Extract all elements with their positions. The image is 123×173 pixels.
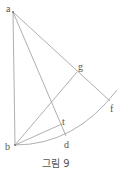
segment-ab <box>13 12 15 145</box>
segment-af <box>13 12 110 101</box>
figure-caption: 그림 9 <box>42 158 70 169</box>
point-a-dot <box>12 11 14 13</box>
segment-ad <box>13 12 66 136</box>
point-b-dot <box>14 144 16 146</box>
label-f: f <box>110 103 114 114</box>
geometry-diagram: a b g f d t 그림 9 <box>0 0 123 173</box>
label-t: t <box>62 116 65 127</box>
arc-bdf <box>15 90 117 145</box>
label-g: g <box>78 61 83 72</box>
segment-bt <box>15 124 62 145</box>
label-d: d <box>64 139 69 150</box>
figure-9: a b g f d t 그림 9 <box>0 0 123 173</box>
label-b: b <box>5 141 10 152</box>
label-a: a <box>6 3 11 14</box>
segment-bg <box>15 72 77 145</box>
